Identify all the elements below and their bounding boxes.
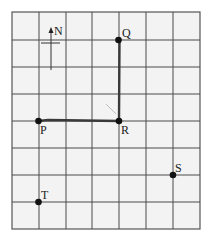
north-label: N [54,24,63,38]
point-label: T [41,188,49,202]
point-label: R [121,123,129,137]
point-label: P [40,123,47,137]
grid-map: N Q P R S T [0,0,206,241]
point-label: Q [122,26,131,40]
point-label: S [175,161,182,175]
